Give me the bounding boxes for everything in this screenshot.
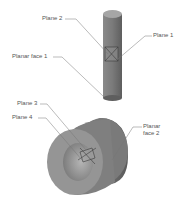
leader-plane-1 [118,36,152,59]
leader-plane-2 [65,19,108,54]
label-planar-face-2-line2: face 2 [143,130,159,137]
ring-part [47,118,128,195]
label-plane-1: Plane 1 [153,32,173,39]
plane-symbol-rod [105,47,118,61]
leader-planar-face-1 [53,57,104,97]
label-plane-3: Plane 3 [17,100,37,107]
label-planar-face-1: Planar face 1 [12,53,47,60]
label-plane-2: Plane 2 [42,15,62,22]
rod-part [103,10,122,101]
label-planar-face-2-line1: Planar [143,123,160,130]
label-plane-4: Plane 4 [12,114,32,121]
